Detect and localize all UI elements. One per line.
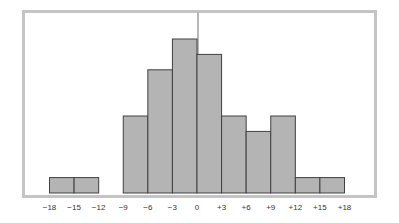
histogram-bar xyxy=(74,178,99,193)
x-tick-label: +12 xyxy=(289,203,303,212)
histogram-bars xyxy=(50,39,345,193)
x-tick-label: +15 xyxy=(313,203,327,212)
histogram-bar xyxy=(271,116,296,193)
x-tick-label: −9 xyxy=(119,203,128,212)
histogram-chart xyxy=(0,0,399,223)
histogram-bar xyxy=(148,70,173,193)
x-tick-label: −15 xyxy=(67,203,81,212)
x-tick-label: −6 xyxy=(143,203,152,212)
x-tick-label: −18 xyxy=(43,203,57,212)
x-tick-label: +3 xyxy=(217,203,226,212)
x-tick-label: 0 xyxy=(195,203,199,212)
x-tick-label: +18 xyxy=(338,203,352,212)
x-tick-label: +9 xyxy=(266,203,275,212)
x-tick-label: −12 xyxy=(92,203,106,212)
x-tick-label: +6 xyxy=(242,203,251,212)
histogram-bar xyxy=(222,116,247,193)
histogram-bar xyxy=(197,54,222,193)
x-tick-label: −3 xyxy=(168,203,177,212)
histogram-bar xyxy=(246,131,271,193)
histogram-bar xyxy=(172,39,197,193)
histogram-bar xyxy=(295,178,320,193)
histogram-bar xyxy=(123,116,148,193)
histogram-bar xyxy=(50,178,75,193)
histogram-bar xyxy=(320,178,345,193)
